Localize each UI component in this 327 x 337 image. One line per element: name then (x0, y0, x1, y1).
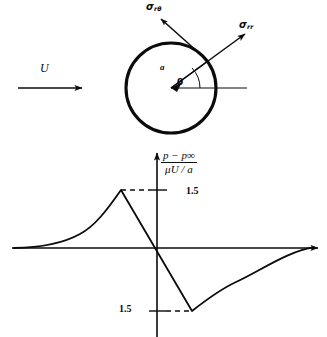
tick-label-positive: 1.5 (186, 186, 199, 196)
tick-marks (149, 190, 167, 311)
plot-axes (12, 153, 318, 337)
sigma-rtheta-vector (161, 19, 208, 61)
pressure-curve (14, 190, 314, 311)
theta-angle-label: θ (177, 78, 183, 87)
y-axis-label: p − p∞ μU / a (161, 150, 197, 175)
sigma-r-theta-label: σrθ (146, 2, 162, 13)
y-axis-denominator: μU / a (161, 163, 197, 175)
tick-label-negative: 1.5 (119, 304, 132, 314)
freestream-velocity-label: U (40, 62, 49, 74)
y-axis-numerator: p − p∞ (161, 150, 197, 163)
figure-canvas: σrθ σrr a θ U p − p∞ μU / a 1.5 1.5 (0, 0, 327, 337)
sigma-r-r-label: σrr (239, 20, 254, 31)
radius-label: a (160, 63, 165, 72)
